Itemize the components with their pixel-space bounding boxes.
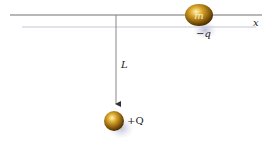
x-axis-label: x [253,17,259,28]
fixed-charge [104,111,124,131]
length-label: L [120,59,128,70]
fixed-charge-label: +Q [127,115,144,126]
moving-charge-label: −q [196,28,211,39]
physics-diagram: x L m −q +Q [0,0,274,150]
mass-label: m [194,10,203,21]
